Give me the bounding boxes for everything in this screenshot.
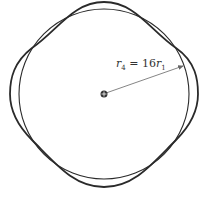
label-eq: = [126, 57, 142, 70]
orbit-diagram [0, 0, 209, 201]
label-coef: 16 [142, 57, 156, 70]
label-rhs-sub: 1 [161, 64, 165, 72]
radius-label: r4 = 16r1 [116, 57, 166, 72]
